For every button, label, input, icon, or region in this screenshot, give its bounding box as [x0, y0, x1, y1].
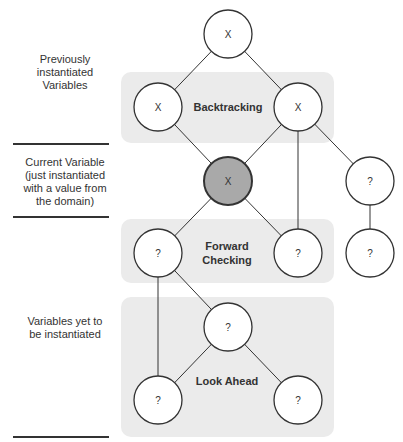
node-label: ? [295, 248, 301, 259]
node-label: ? [367, 248, 373, 259]
node-label: ? [295, 395, 301, 406]
node-label: ? [367, 176, 373, 187]
variable-node: ? [274, 229, 322, 277]
node-label: X [295, 102, 302, 113]
variable-node: ? [204, 303, 252, 351]
look-ahead-label: Look Ahead [196, 375, 259, 387]
variable-node: X [134, 83, 182, 131]
backtracking-label: Backtracking [193, 101, 262, 113]
forward-checking-label-1: Forward [205, 240, 248, 252]
node-label: X [225, 29, 232, 40]
node-label: ? [155, 248, 161, 259]
forward-checking-label-2: Checking [202, 254, 252, 266]
node-label: ? [225, 322, 231, 333]
variable-node: X [274, 83, 322, 131]
variable-node: ? [134, 376, 182, 424]
node-label: X [225, 176, 232, 187]
current-variable-node: X [204, 157, 252, 205]
variable-node: ? [346, 229, 394, 277]
variable-node: ? [134, 229, 182, 277]
variable-node: ? [274, 376, 322, 424]
node-label: X [155, 102, 162, 113]
variable-node: ? [346, 157, 394, 205]
search-tree-diagram: XXXX??????? Backtracking Forward Checkin… [0, 0, 403, 442]
variable-node: X [204, 10, 252, 58]
node-label: ? [155, 395, 161, 406]
